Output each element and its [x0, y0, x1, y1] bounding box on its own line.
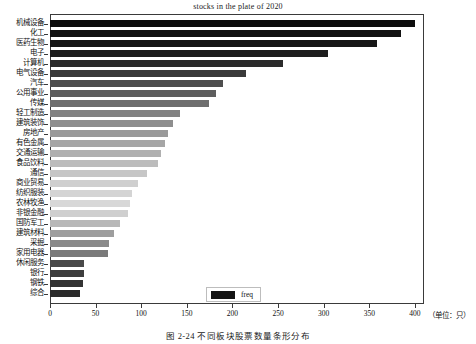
y-axis-tick	[44, 34, 48, 35]
y-axis-tick-label: 综合	[0, 289, 44, 297]
x-axis-tick-label: 400	[409, 309, 420, 318]
y-axis-tick	[44, 234, 48, 235]
y-axis-tick-label: 机械设备	[0, 19, 44, 27]
chart-figure: stocks in the plate of 2020 机械设备化工医药生物电子…	[0, 0, 476, 344]
y-axis-tick	[44, 154, 48, 155]
y-axis-tick-label: 建筑材料	[0, 229, 44, 237]
y-axis-labels: 机械设备化工医药生物电子计算机电气设备汽车公用事业传媒轻工制造建筑装饰房地产有色…	[0, 14, 44, 304]
bars-container	[50, 14, 424, 304]
y-axis-tick	[44, 224, 48, 225]
bar	[50, 270, 84, 276]
y-axis-tick	[44, 144, 48, 145]
y-axis-tick-label: 钢铁	[0, 279, 44, 287]
chart-title: stocks in the plate of 2020	[0, 2, 476, 11]
y-axis-tick-label: 汽车	[0, 79, 44, 87]
y-axis-tick-label: 有色金属	[0, 139, 44, 147]
y-axis-tick-label: 食品饮料	[0, 159, 44, 167]
y-axis-tick	[44, 114, 48, 115]
bar-row	[50, 120, 424, 126]
y-axis-tick-label: 公用事业	[0, 89, 44, 97]
y-axis-tick	[44, 94, 48, 95]
bar-row	[50, 50, 424, 56]
x-axis-tick	[96, 304, 97, 308]
bar	[50, 90, 216, 96]
x-axis-unit-label: （单位：只）	[428, 309, 470, 320]
bar	[50, 220, 120, 226]
bar	[50, 290, 80, 296]
y-axis-tick-label: 医药生物	[0, 39, 44, 47]
y-axis-tick	[44, 184, 48, 185]
bar	[50, 120, 173, 126]
y-axis-tick-label: 化工	[0, 29, 44, 37]
y-axis-tick	[44, 64, 48, 65]
x-axis-tick	[50, 304, 51, 308]
x-axis-tick-label: 300	[318, 309, 329, 318]
y-axis-tick	[44, 124, 48, 125]
bar	[50, 240, 109, 246]
y-axis-tick	[44, 264, 48, 265]
bar-row	[50, 250, 424, 256]
bar	[50, 160, 158, 166]
bar	[50, 30, 401, 36]
bar	[50, 180, 138, 186]
x-axis-tick	[278, 304, 279, 308]
y-axis-tick	[44, 44, 48, 45]
bar-row	[50, 90, 424, 96]
bar-row	[50, 160, 424, 166]
bar-row	[50, 240, 424, 246]
y-axis-tick	[44, 284, 48, 285]
bar	[50, 110, 180, 116]
bar-row	[50, 200, 424, 206]
bar-row	[50, 100, 424, 106]
bar	[50, 200, 130, 206]
y-axis-tick-label: 电气设备	[0, 69, 44, 77]
y-axis-tick-label: 采掘	[0, 239, 44, 247]
bar-row	[50, 210, 424, 216]
bar-row	[50, 230, 424, 236]
bar-row	[50, 280, 424, 286]
bar	[50, 80, 223, 86]
y-axis-tick	[44, 254, 48, 255]
bar-row	[50, 60, 424, 66]
bar	[50, 250, 108, 256]
y-axis-tick	[44, 274, 48, 275]
bar-row	[50, 270, 424, 276]
y-axis-tick	[44, 74, 48, 75]
legend-swatch-freq	[211, 291, 235, 299]
bar-row	[50, 70, 424, 76]
bar-row	[50, 40, 424, 46]
bar	[50, 40, 377, 46]
y-axis-tick	[44, 164, 48, 165]
x-axis-tick-label: 50	[92, 309, 100, 318]
bar	[50, 50, 328, 56]
bar	[50, 190, 132, 196]
bar	[50, 170, 147, 176]
x-axis-tick-label: 0	[48, 309, 52, 318]
y-axis-tick-label: 纺织服装	[0, 189, 44, 197]
bar	[50, 230, 114, 236]
y-axis-tick-label: 休闲服务	[0, 259, 44, 267]
x-axis-tick-label: 200	[227, 309, 238, 318]
y-axis-tick-label: 交通运输	[0, 149, 44, 157]
y-axis-tick	[44, 174, 48, 175]
bar	[50, 20, 415, 26]
bar-row	[50, 80, 424, 86]
bar-row	[50, 110, 424, 116]
x-axis-tick	[324, 304, 325, 308]
y-axis-tick-label: 轻工制造	[0, 109, 44, 117]
bar-row	[50, 150, 424, 156]
bar-row	[50, 140, 424, 146]
legend: freq	[206, 287, 261, 302]
y-axis-tick	[44, 204, 48, 205]
legend-label-freq: freq	[241, 290, 253, 299]
bar-row	[50, 20, 424, 26]
bar-row	[50, 220, 424, 226]
y-axis-tick-label: 银行	[0, 269, 44, 277]
y-axis-tick-label: 传媒	[0, 99, 44, 107]
y-axis-tick	[44, 84, 48, 85]
y-axis-tick-label: 家用电器	[0, 249, 44, 257]
bar	[50, 100, 209, 106]
x-axis-tick-label: 100	[136, 309, 147, 318]
y-axis-tick	[44, 104, 48, 105]
x-axis-tick-label: 150	[181, 309, 192, 318]
